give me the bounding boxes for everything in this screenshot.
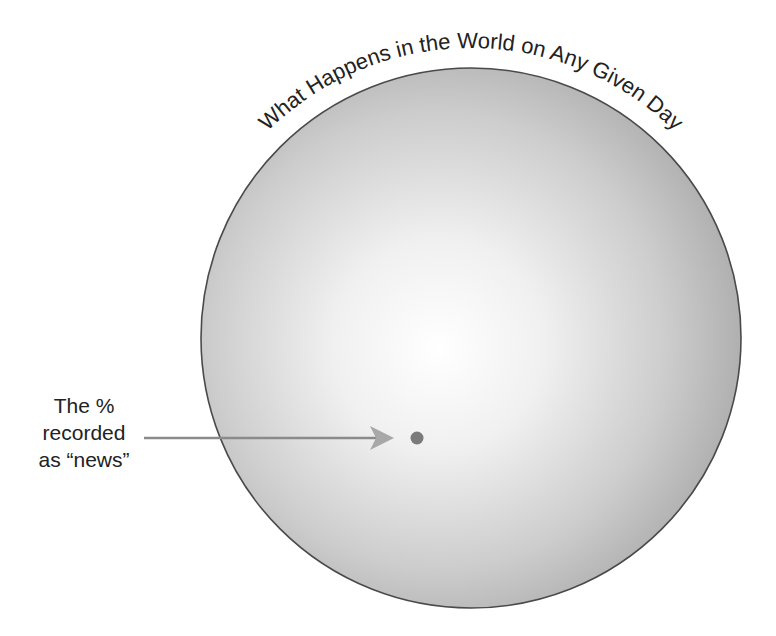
annotation-line-2: recorded xyxy=(22,419,146,446)
annotation-line-1: The % xyxy=(22,392,146,419)
news-dot xyxy=(411,432,424,445)
annotation-line-3: as “news” xyxy=(22,446,146,473)
world-news-diagram: What Happens in the World on Any Given D… xyxy=(0,0,776,636)
news-annotation-label: The % recorded as “news” xyxy=(22,392,146,473)
world-circle xyxy=(201,68,741,608)
